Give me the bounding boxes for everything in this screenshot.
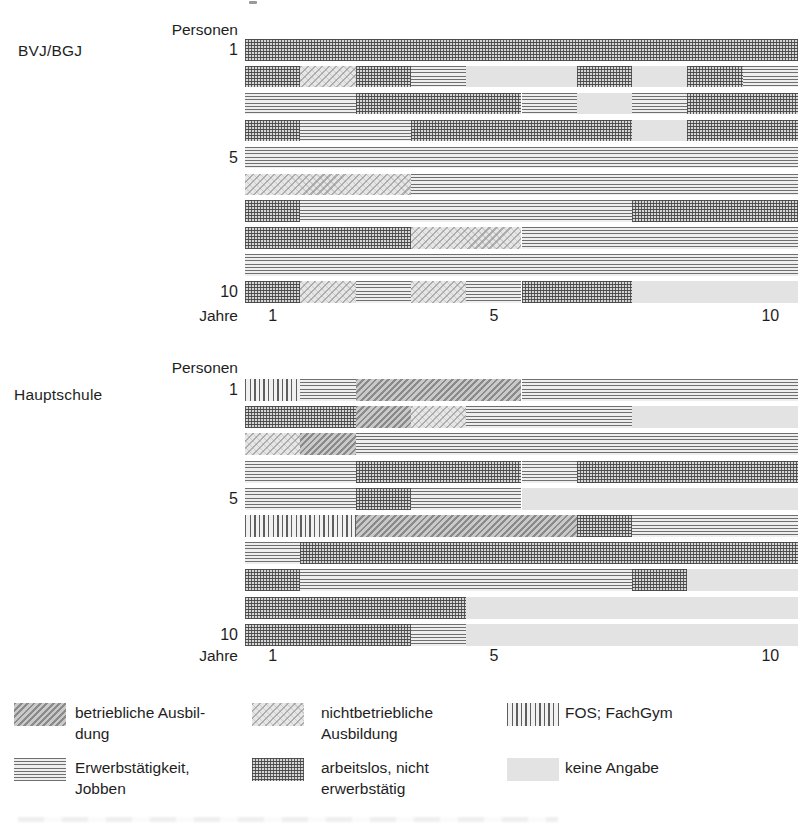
- x-axis-tick-label: 5: [489, 307, 498, 325]
- segment-keine: [632, 120, 687, 142]
- segment-erwerb: [245, 488, 356, 510]
- segment-nichtbetrieblich: [411, 227, 522, 249]
- segment-nichtbetrieblich: [300, 281, 355, 303]
- segment-erwerb: [356, 281, 411, 303]
- segment-erwerb: [356, 433, 798, 455]
- y-axis-title-personen: Personen: [100, 359, 238, 377]
- legend-item-fos-fachgym: FOS; FachGym: [507, 703, 673, 726]
- person-number-label: 1: [100, 379, 238, 401]
- person-row: [245, 93, 798, 115]
- person-row: [245, 66, 798, 88]
- legend-swatch-nichtbetriebliche-ausbildung: [252, 703, 304, 726]
- person-row: [245, 39, 798, 61]
- person-row: [245, 281, 798, 303]
- segment-erwerb: [522, 461, 577, 483]
- segment-arbeitslos: [687, 93, 798, 115]
- x-axis-tick-label: 10: [761, 307, 779, 325]
- x-axis-title-jahre: Jahre: [100, 647, 238, 665]
- legend-item-betriebliche-ausbildung: betriebliche Ausbil- dung: [14, 703, 205, 745]
- legend-item-nichtbetriebliche-ausbildung: nichtbetriebliche Ausbildung: [252, 703, 433, 745]
- segment-erwerb: [522, 379, 799, 401]
- person-number-label: 5: [100, 488, 238, 510]
- segment-arbeitslos: [356, 488, 411, 510]
- legend-label: Erwerbstätigkeit, Jobben: [75, 757, 190, 799]
- segment-erwerb: [466, 281, 521, 303]
- segment-arbeitslos: [300, 542, 798, 564]
- person-row: [245, 433, 798, 455]
- segment-erwerb: [466, 406, 632, 428]
- segment-arbeitslos: [411, 120, 632, 142]
- segment-erwerb: [411, 174, 798, 196]
- segment-arbeitslos: [245, 227, 411, 249]
- legend-label: betriebliche Ausbil- dung: [75, 702, 205, 744]
- segment-keine: [466, 66, 577, 88]
- segment-betrieblich: [356, 406, 411, 428]
- segment-arbeitslos: [245, 281, 300, 303]
- segment-nichtbetrieblich: [411, 281, 466, 303]
- legend-item-arbeitslos: arbeitslos, nicht erwerbstätig: [252, 758, 429, 800]
- segment-nichtbetrieblich: [245, 433, 300, 455]
- legend-swatch-keine-angabe: [507, 758, 559, 781]
- segment-arbeitslos: [245, 597, 466, 619]
- segment-erwerb: [632, 93, 687, 115]
- x-axis-tick-label: 5: [489, 647, 498, 665]
- segment-erwerb: [743, 66, 798, 88]
- legend-label: FOS; FachGym: [565, 702, 673, 723]
- person-number-label: 10: [100, 281, 238, 303]
- segment-erwerb: [300, 379, 355, 401]
- segment-arbeitslos: [245, 120, 300, 142]
- segment-nichtbetrieblich: [411, 406, 466, 428]
- segment-erwerb: [522, 227, 799, 249]
- segment-arbeitslos: [577, 66, 632, 88]
- segment-arbeitslos: [356, 93, 522, 115]
- segment-arbeitslos: [687, 66, 742, 88]
- segment-betrieblich: [300, 433, 355, 455]
- person-row: [245, 624, 798, 646]
- person-row: [245, 515, 798, 537]
- y-axis-title-personen: Personen: [100, 21, 238, 39]
- segment-arbeitslos: [245, 624, 411, 646]
- x-axis-tick-label: 10: [761, 647, 779, 665]
- x-axis-tick-label: 1: [268, 647, 277, 665]
- segment-fos: [245, 379, 300, 401]
- person-row: [245, 147, 798, 169]
- segment-erwerb: [300, 120, 411, 142]
- legend-label: keine Angabe: [565, 757, 659, 778]
- person-row: [245, 379, 798, 401]
- person-row: [245, 227, 798, 249]
- segment-keine: [466, 624, 798, 646]
- segment-erwerb: [411, 66, 466, 88]
- segment-erwerb: [245, 461, 356, 483]
- segment-arbeitslos: [245, 569, 300, 591]
- person-row: [245, 200, 798, 222]
- segment-erwerb: [245, 254, 798, 276]
- segment-arbeitslos: [522, 281, 633, 303]
- x-axis-title-jahre: Jahre: [100, 307, 238, 325]
- segment-keine: [522, 488, 799, 510]
- x-axis-tick-label: 1: [268, 307, 277, 325]
- sequence-chart-figure: BVJ/BGJ Personen 1510 Jahre 1510 Hauptsc…: [0, 0, 806, 824]
- person-row: [245, 488, 798, 510]
- segment-nichtbetrieblich: [300, 66, 355, 88]
- scan-artifact-bottom: [18, 817, 558, 822]
- legend-label: nichtbetriebliche Ausbildung: [321, 702, 433, 744]
- segment-nichtbetrieblich: [245, 174, 411, 196]
- segment-erwerb: [632, 515, 798, 537]
- segment-erwerb: [245, 147, 798, 169]
- person-row: [245, 542, 798, 564]
- person-row: [245, 569, 798, 591]
- segment-erwerb: [245, 542, 300, 564]
- segment-arbeitslos: [245, 39, 798, 61]
- sequence-rows-hauptschule: [245, 379, 798, 646]
- person-row: [245, 174, 798, 196]
- segment-betrieblich: [356, 515, 577, 537]
- segment-erwerb: [300, 569, 632, 591]
- segment-arbeitslos: [577, 461, 798, 483]
- group-label-hauptschule: Hauptschule: [14, 386, 102, 404]
- segment-erwerb: [522, 93, 577, 115]
- person-number-label: 1: [100, 39, 238, 61]
- x-axis-ticks: 1510: [245, 647, 798, 667]
- segment-erwerb: [411, 624, 466, 646]
- segment-arbeitslos: [632, 569, 687, 591]
- sequence-rows-bvj-bgj: [245, 39, 798, 304]
